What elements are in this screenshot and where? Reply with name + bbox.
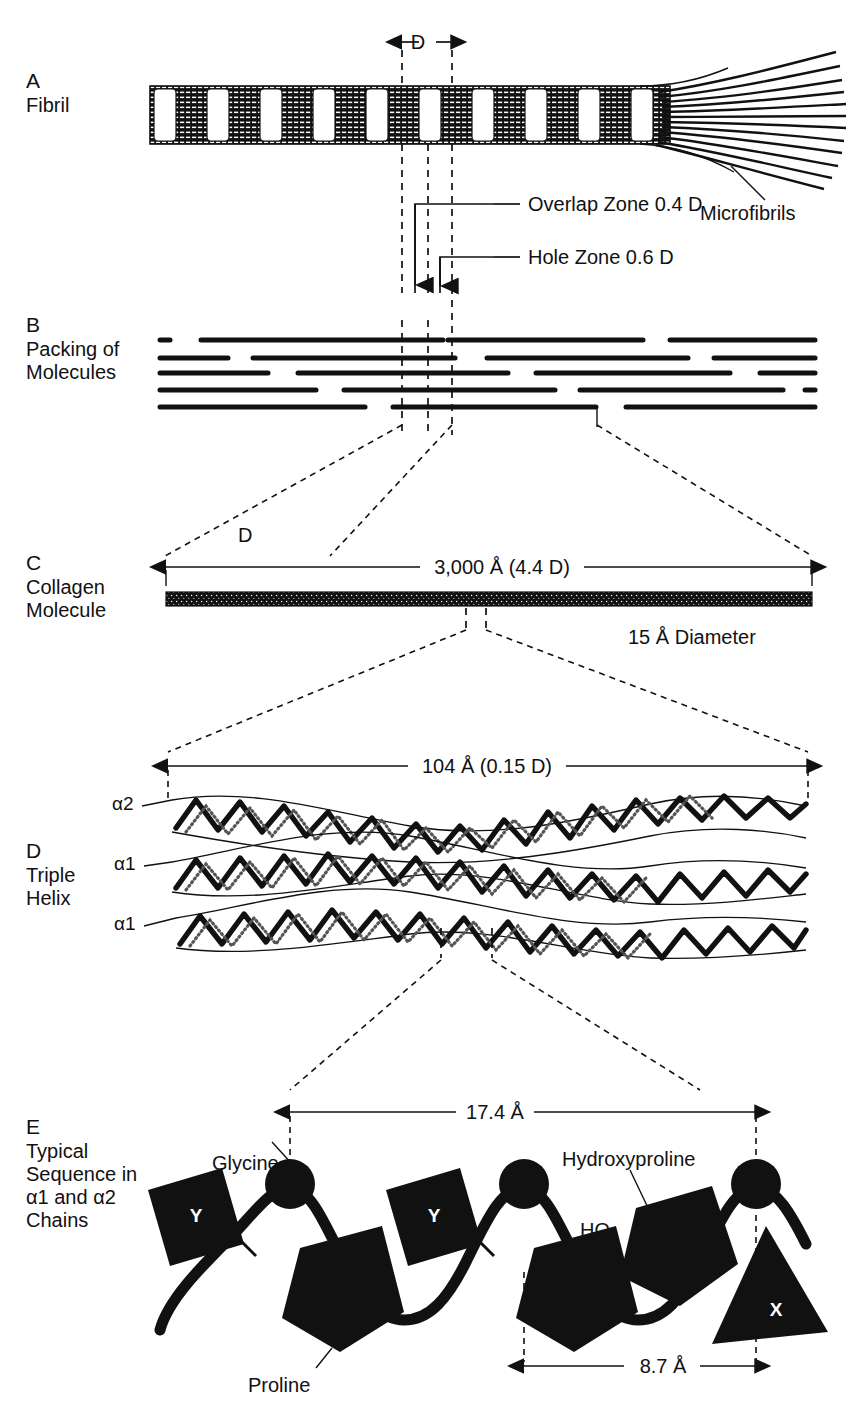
chain-label-alpha1-mid: α1 [114, 853, 136, 874]
microfibril-strands [656, 52, 846, 189]
panel-e-name-line3: α1 and α2 [26, 1186, 116, 1208]
y-residue-2: Y [386, 1168, 494, 1266]
molecule-length-dimension: 3,000 Å (4.4 D) [166, 556, 812, 586]
y-residue-glyph-1: Y [190, 1205, 203, 1226]
triplet-label: 17.4 Å [466, 1101, 524, 1123]
hole-zone-label: Hole Zone 0.6 D [528, 246, 674, 268]
overlap-zone-label: Overlap Zone 0.4 D [528, 193, 703, 215]
glycine-label: Glycine [212, 1152, 279, 1174]
panel-c-name-line1: Collagen [26, 576, 105, 598]
panel-c-group: C Collagen Molecule D 3,000 Å (4.4 D) 15… [26, 524, 812, 648]
panel-e-name-line4: Chains [26, 1209, 88, 1231]
panel-b-name-line1: Packing of [26, 338, 120, 360]
d-period-label: D [411, 31, 425, 53]
collagen-molecule-rod [166, 592, 812, 606]
panel-c-name-line2: Molecule [26, 599, 106, 621]
panel-a-letter: A [26, 69, 40, 92]
packed-molecule-rows [160, 340, 815, 407]
glycine-circle-3 [731, 1159, 781, 1209]
molecule-diameter-label: 15 Å Diameter [628, 626, 756, 648]
panel-d-letter: D [26, 839, 41, 862]
glycine-circle-2 [499, 1159, 549, 1209]
panel-e-name-line1: Typical [26, 1140, 88, 1162]
hydroxyl-label: HO [580, 1219, 610, 1241]
proline-pentagon-1 [282, 1226, 404, 1352]
panel-b-letter: B [26, 313, 40, 336]
figure-canvas: A Fibril D [0, 0, 866, 1416]
y-residue-1: Y [148, 1168, 256, 1266]
panel-e-name-line2: Sequence in [26, 1163, 137, 1185]
proline-pentagon-2 [516, 1226, 638, 1352]
microfibrils-callout: Microfibrils [700, 166, 796, 224]
panel-b-group: B Packing of Molecules [26, 313, 815, 407]
hydroxyproline-pentagon [620, 1186, 738, 1306]
panel-b-name-line2: Molecules [26, 361, 116, 383]
hole-zone-callout: Hole Zone 0.6 D [440, 246, 674, 293]
proline-callout: Proline [248, 1348, 332, 1396]
rise-label: 8.7 Å [640, 1355, 687, 1377]
microfibrils-label: Microfibrils [700, 202, 796, 224]
panel-c-d-label: D [238, 524, 252, 546]
panel-a-name: Fibril [26, 94, 69, 116]
expansion-connectors-d-e [290, 928, 700, 1090]
fibril-body [150, 52, 846, 189]
molecule-length-label: 3,000 Å (4.4 D) [434, 556, 570, 578]
helix-strand-3 [176, 889, 806, 958]
chain-label-alpha2: α2 [112, 793, 134, 814]
x-residue-glyph: X [770, 1299, 783, 1320]
panel-e-letter: E [26, 1115, 40, 1138]
hydroxyproline-label: Hydroxyproline [562, 1148, 695, 1170]
panel-c-letter: C [26, 551, 41, 574]
panel-d-group: D Triple Helix 104 Å (0.15 D) α2 α1 α1 [26, 755, 808, 958]
y-residue-glyph-2: Y [428, 1205, 441, 1226]
panel-d-name-line1: Triple [26, 864, 75, 886]
panel-e-group: E Typical Sequence in α1 and α2 Chains 1… [26, 1101, 828, 1396]
chain-label-alpha1-low: α1 [114, 913, 136, 934]
helix-pitch-label: 104 Å (0.15 D) [422, 755, 552, 777]
expansion-connectors-b-c [165, 407, 812, 556]
panel-d-name-line2: Helix [26, 887, 70, 909]
helix-pitch-dimension: 104 Å (0.15 D) [168, 755, 808, 800]
overlap-zone-callout: Overlap Zone 0.4 D [415, 193, 703, 293]
d-period-dimension: D [402, 31, 452, 53]
proline-label: Proline [248, 1374, 310, 1396]
triple-helix-strands [172, 796, 806, 958]
